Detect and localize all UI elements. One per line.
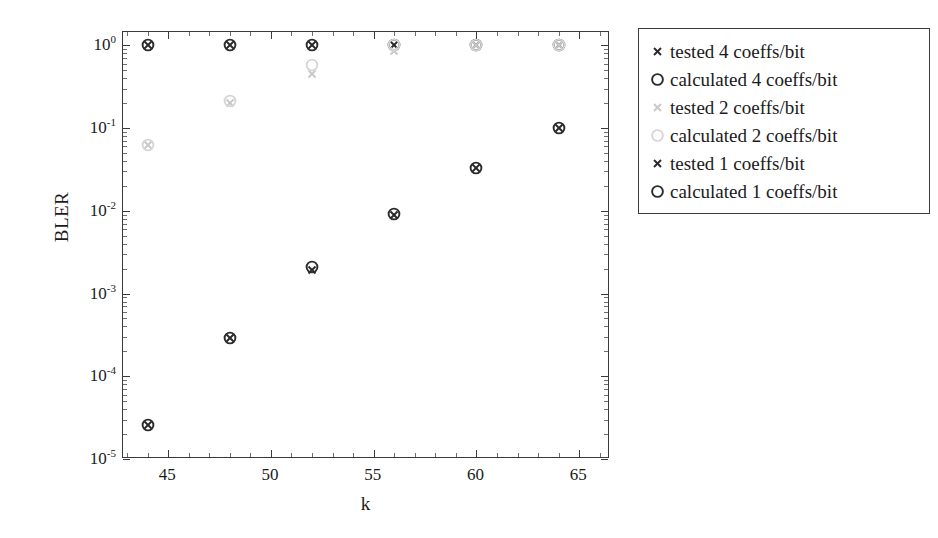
legend-item-label: tested 4 coeffs/bit xyxy=(670,42,805,61)
y-axis-minor-tick xyxy=(604,58,608,59)
y-axis-minor-tick xyxy=(123,64,127,65)
y-axis-minor-tick xyxy=(604,434,608,435)
y-axis-major-tick xyxy=(601,45,608,46)
y-axis-minor-tick xyxy=(604,153,608,154)
y-axis-minor-tick xyxy=(604,215,608,216)
y-axis-tick-label: 10-1 xyxy=(90,119,116,136)
x-axis-minor-tick xyxy=(209,32,210,36)
data-point xyxy=(470,161,483,174)
y-axis-minor-tick xyxy=(604,337,608,338)
circle-marker-icon xyxy=(647,69,667,89)
x-axis-minor-tick xyxy=(127,453,128,457)
x-axis-minor-tick xyxy=(538,32,539,36)
y-axis-minor-tick xyxy=(604,146,608,147)
x-axis-minor-tick xyxy=(559,32,560,36)
y-axis-major-tick xyxy=(123,128,130,129)
y-axis-major-tick xyxy=(123,459,130,460)
y-axis-minor-tick xyxy=(123,153,127,154)
circle-marker-icon xyxy=(647,125,667,145)
data-point xyxy=(552,122,565,135)
y-axis-minor-tick xyxy=(604,269,608,270)
y-axis-minor-tick xyxy=(123,236,127,237)
y-axis-minor-tick xyxy=(123,318,127,319)
x-axis-minor-tick xyxy=(518,32,519,36)
legend-item[interactable]: tested 1 coeffs/bit xyxy=(647,149,917,177)
x-axis-minor-tick xyxy=(456,32,457,36)
legend-item-label: tested 2 coeffs/bit xyxy=(670,98,805,117)
y-axis-minor-tick xyxy=(123,380,127,381)
y-axis-minor-tick xyxy=(604,224,608,225)
y-axis-minor-tick xyxy=(123,186,127,187)
x-axis-major-tick xyxy=(168,450,169,457)
x-axis-major-tick xyxy=(374,450,375,457)
x-axis-tick-label: 45 xyxy=(159,466,176,483)
legend-item[interactable]: calculated 4 coeffs/bit xyxy=(647,65,917,93)
y-axis-minor-tick xyxy=(123,401,127,402)
y-axis-minor-tick xyxy=(123,224,127,225)
y-axis-minor-tick xyxy=(604,389,608,390)
y-axis-minor-tick xyxy=(604,64,608,65)
x-axis-tick-label: 65 xyxy=(570,466,587,483)
y-axis-minor-tick xyxy=(123,53,127,54)
y-axis-minor-tick xyxy=(123,351,127,352)
data-point xyxy=(388,207,401,220)
y-axis-minor-tick xyxy=(604,171,608,172)
y-axis-minor-tick xyxy=(604,244,608,245)
y-axis-tick-label: 10-3 xyxy=(90,284,116,301)
y-axis-minor-tick xyxy=(604,409,608,410)
y-axis-minor-tick xyxy=(604,326,608,327)
y-axis-minor-tick xyxy=(604,351,608,352)
x-axis-minor-tick xyxy=(518,453,519,457)
y-axis-minor-tick xyxy=(123,58,127,59)
x-axis-minor-tick xyxy=(559,453,560,457)
y-axis-minor-tick xyxy=(123,161,127,162)
x-axis-tick-labels: 4550556065 xyxy=(0,466,938,490)
y-axis-tick-label: 100 xyxy=(94,36,117,53)
y-axis-minor-tick xyxy=(604,136,608,137)
x-axis-minor-tick xyxy=(312,453,313,457)
y-axis-minor-tick xyxy=(123,434,127,435)
y-axis-minor-tick xyxy=(604,312,608,313)
x-marker-icon xyxy=(647,97,667,117)
x-axis-minor-tick xyxy=(456,453,457,457)
y-axis-minor-tick xyxy=(123,254,127,255)
circle-marker-icon xyxy=(647,181,667,201)
legend-item[interactable]: calculated 2 coeffs/bit xyxy=(647,121,917,149)
y-axis-minor-tick xyxy=(123,141,127,142)
x-axis-minor-tick xyxy=(312,32,313,36)
y-axis-minor-tick xyxy=(604,141,608,142)
y-axis-tick-label: 10-4 xyxy=(90,367,116,384)
legend-item[interactable]: tested 2 coeffs/bit xyxy=(647,93,917,121)
y-axis-title: BLER xyxy=(51,147,73,287)
x-axis-major-tick xyxy=(476,450,477,457)
bler-vs-k-figure: 10010-110-210-310-410-5 BLER 4550556065 … xyxy=(0,0,938,538)
data-point xyxy=(306,39,319,52)
x-axis-minor-tick xyxy=(435,32,436,36)
x-marker-icon xyxy=(647,41,667,61)
x-axis-minor-tick xyxy=(250,32,251,36)
data-point xyxy=(470,39,483,52)
plot-area xyxy=(122,31,609,458)
y-axis-minor-tick xyxy=(604,297,608,298)
x-axis-major-tick xyxy=(271,450,272,457)
x-axis-major-tick xyxy=(271,32,272,39)
y-axis-major-tick xyxy=(123,211,130,212)
x-axis-minor-tick xyxy=(600,453,601,457)
data-point xyxy=(552,39,565,52)
x-axis-minor-tick xyxy=(394,453,395,457)
y-axis-minor-tick xyxy=(123,312,127,313)
y-axis-minor-tick xyxy=(123,297,127,298)
chart-legend: tested 4 coeffs/bitcalculated 4 coeffs/b… xyxy=(638,28,930,214)
legend-item[interactable]: tested 4 coeffs/bit xyxy=(647,37,917,65)
x-axis-minor-tick xyxy=(189,453,190,457)
data-point xyxy=(223,39,236,52)
x-axis-tick-label: 60 xyxy=(467,466,484,483)
y-axis-minor-tick xyxy=(123,395,127,396)
y-axis-minor-tick xyxy=(604,401,608,402)
legend-item[interactable]: calculated 1 coeffs/bit xyxy=(647,177,917,205)
x-axis-minor-tick xyxy=(394,32,395,36)
y-axis-minor-tick xyxy=(123,89,127,90)
y-axis-minor-tick xyxy=(604,236,608,237)
y-axis-minor-tick xyxy=(604,49,608,50)
y-axis-minor-tick xyxy=(604,78,608,79)
